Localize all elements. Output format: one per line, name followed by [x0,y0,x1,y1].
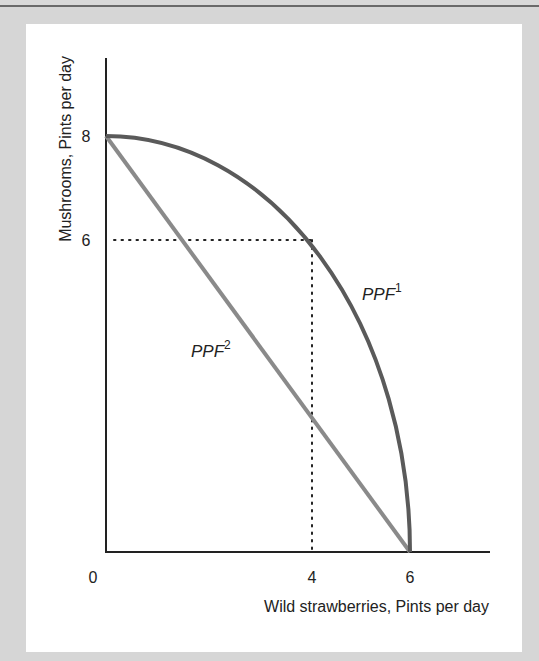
x-tick-6: 6 [406,569,415,586]
ppf2-label-sup: 2 [224,338,231,352]
ppf2-line [106,136,410,552]
origin-label: 0 [89,569,98,586]
ppf1-label-base: PPF [362,285,397,304]
ppf2-label: PPF2 [191,338,231,361]
ppf1-label: PPF1 [362,281,402,304]
ppf-chart: 8 6 0 4 6 Wild strawberries, Pints per d… [0,0,539,661]
x-axis-label: Wild strawberries, Pints per day [264,598,489,615]
y-tick-8: 8 [82,128,91,145]
y-axis-label: Mushrooms, Pints per day [57,56,74,242]
x-tick-4: 4 [308,569,317,586]
ppf2-label-base: PPF [191,342,226,361]
ppf1-label-sup: 1 [395,281,402,295]
y-tick-6: 6 [82,232,91,249]
